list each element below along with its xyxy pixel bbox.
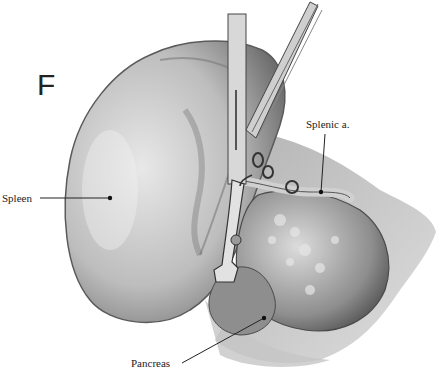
label-spleen: Spleen [2, 193, 32, 204]
panel-letter: F [37, 70, 55, 100]
label-splenic-artery: Splenic a. [306, 119, 349, 130]
anatomical-illustration: F Spleen Splenic a. Pancreas [0, 0, 439, 372]
label-pancreas: Pancreas [131, 358, 170, 369]
illustration-drawing [0, 0, 439, 372]
